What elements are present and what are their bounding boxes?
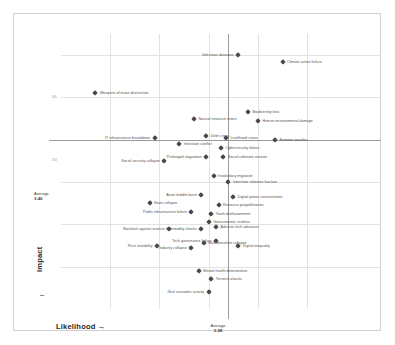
data-point-marker[interactable] xyxy=(188,209,194,215)
data-point-marker[interactable] xyxy=(206,289,212,295)
data-point-label: Youth disillusionment xyxy=(216,212,251,216)
data-point-marker[interactable] xyxy=(255,118,261,124)
chart-frame: 3.63.3Weapons of mass destructionInfecti… xyxy=(13,13,381,331)
data-point-label: Extreme weather xyxy=(280,138,308,142)
x-average-value: 3.28 xyxy=(200,328,236,333)
scatter-plot-area: 3.63.3Weapons of mass destructionInfecti… xyxy=(61,34,381,309)
data-point-label: Mental health deterioration xyxy=(203,269,247,273)
data-point-label: Infectious diseases xyxy=(202,53,234,57)
data-point-label: Climate action failure xyxy=(287,59,322,63)
data-point-marker[interactable] xyxy=(225,179,231,185)
data-point-label: Price instability xyxy=(128,243,153,247)
data-point-marker[interactable] xyxy=(235,52,241,58)
data-point-label: Industry collapse xyxy=(159,245,187,249)
data-point-marker[interactable] xyxy=(176,141,182,147)
data-point-label: Illicit economic activity xyxy=(168,290,205,294)
data-point-marker[interactable] xyxy=(230,194,236,200)
y-axis-tick-label: 3.6 xyxy=(52,95,57,99)
data-point-label: Digital power concentration xyxy=(238,195,283,199)
data-point-label: State collapse xyxy=(154,201,177,205)
gridline-horizontal xyxy=(61,97,381,98)
data-point-label: Interstate conflict xyxy=(184,142,212,146)
y-average-label: Average 3.40 xyxy=(34,191,49,201)
data-point-label: Cybersecurity failure xyxy=(226,146,260,150)
data-point-marker[interactable] xyxy=(147,200,153,206)
data-point-marker[interactable] xyxy=(191,116,197,122)
data-point-marker[interactable] xyxy=(211,173,217,179)
data-point-label: Multilateralism collapse xyxy=(208,241,246,245)
data-point-label: Commodity shocks xyxy=(166,226,197,230)
data-point-label: Biodiversity loss xyxy=(253,110,280,114)
data-point-label: Natural resource crises xyxy=(198,116,236,120)
y-axis-title: Impact xyxy=(35,247,44,272)
data-point-marker[interactable] xyxy=(218,145,224,151)
data-point-label: Human environmental damage xyxy=(262,119,312,123)
data-point-label: Public infrastructure failure xyxy=(143,209,187,213)
data-point-marker[interactable] xyxy=(220,154,226,160)
data-point-label: Social security collapse xyxy=(121,159,160,163)
data-point-marker[interactable] xyxy=(198,226,204,232)
data-point-label: Livelihood crises xyxy=(230,135,257,139)
gridline-vertical xyxy=(307,34,308,309)
data-point-marker[interactable] xyxy=(198,192,204,198)
data-point-label: Backlash against science xyxy=(123,226,165,230)
gridline-vertical xyxy=(159,34,160,309)
x-axis-title: Likelihood → xyxy=(56,322,105,331)
data-point-marker[interactable] xyxy=(272,137,278,143)
data-point-marker[interactable] xyxy=(280,59,286,65)
data-point-marker[interactable] xyxy=(245,109,251,115)
data-point-label: Digital inequality xyxy=(243,243,270,247)
y-axis-arrow-icon: ↑ xyxy=(38,294,45,298)
data-point-label: Prolonged stagnation xyxy=(167,154,202,158)
y-average-value: 3.40 xyxy=(34,196,49,201)
gridline-vertical xyxy=(258,34,259,309)
data-point-label: Asset bubble burst xyxy=(166,193,197,197)
x-axis-title-label: Likelihood xyxy=(56,322,96,331)
data-point-marker[interactable] xyxy=(92,90,98,96)
data-point-label: Social cohesion erosion xyxy=(228,154,267,158)
data-point-label: Involuntary migration xyxy=(218,174,252,178)
data-point-label: Weapons of mass destruction xyxy=(100,91,149,95)
data-point-label: Terrorist attacks xyxy=(216,277,242,281)
average-impact-line xyxy=(49,140,381,141)
x-axis-arrow-icon: → xyxy=(96,322,106,331)
x-average-label: Average 3.28 xyxy=(200,323,236,333)
gridline-horizontal xyxy=(61,267,381,268)
data-point-marker[interactable] xyxy=(196,268,202,274)
data-point-marker[interactable] xyxy=(216,202,222,208)
data-point-label: IT infrastructure breakdown xyxy=(105,135,150,139)
data-point-label: Resource geopolitisation xyxy=(223,203,264,207)
y-axis-tick-label: 3.3 xyxy=(52,158,57,162)
data-point-label: Adverse tech advances xyxy=(221,224,259,228)
data-point-label: Interstate relations fracture xyxy=(233,180,277,184)
data-point-marker[interactable] xyxy=(201,240,207,246)
gridline-horizontal xyxy=(61,182,381,183)
gridline-vertical xyxy=(110,34,111,309)
data-point-marker[interactable] xyxy=(188,245,194,251)
